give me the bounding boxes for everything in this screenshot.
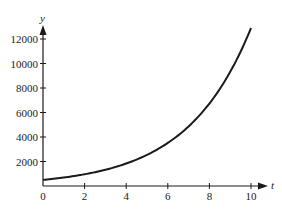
y-axis-label: y xyxy=(39,12,45,24)
exponential-chart: t 0246810 y 20004000600080001000012000 xyxy=(0,0,282,211)
x-tick-label: 10 xyxy=(246,190,258,202)
y-axis-arrow-icon xyxy=(40,25,47,35)
y-tick-label: 10000 xyxy=(11,58,39,70)
data-curve xyxy=(43,28,251,180)
x-tick-label: 2 xyxy=(82,190,88,202)
x-tick-label: 6 xyxy=(165,190,171,202)
x-axis: t 0246810 xyxy=(40,179,275,202)
x-tick-label: 4 xyxy=(123,190,129,202)
x-axis-label: t xyxy=(271,179,275,191)
y-tick-label: 4000 xyxy=(16,131,39,143)
y-tick-label: 2000 xyxy=(16,156,39,168)
x-axis-arrow-icon xyxy=(258,183,268,190)
x-tick-label: 8 xyxy=(207,190,213,202)
y-tick-label: 12000 xyxy=(11,33,39,45)
x-tick-label: 0 xyxy=(40,190,46,202)
y-axis: y 20004000600080001000012000 xyxy=(11,12,47,186)
y-tick-label: 8000 xyxy=(16,82,39,94)
y-tick-label: 6000 xyxy=(16,107,39,119)
